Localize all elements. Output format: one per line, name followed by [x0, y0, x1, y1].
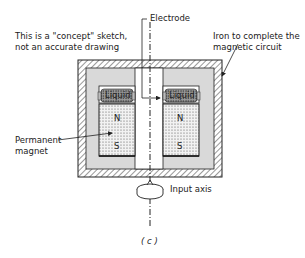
input-axis-label: Input axis [170, 184, 212, 195]
liquid-right-label: Liquid [169, 90, 195, 101]
liquid-left-label: Liquid [105, 90, 131, 101]
iron-label-line2: magnetic circuit [213, 42, 282, 53]
south-pole-left: S [114, 141, 119, 152]
magnet-label-line1: Permanent [15, 135, 61, 146]
south-pole-right: S [177, 141, 182, 152]
north-pole-left: N [114, 113, 120, 124]
central-bore [135, 68, 163, 169]
electrode-label: Electrode [150, 13, 190, 24]
magnet-label-line2: magnet [15, 146, 48, 157]
concept-note-line2: not an accurate drawing [15, 42, 119, 53]
rotation-icon [137, 180, 163, 199]
figure-caption: ( c ) [141, 236, 158, 247]
north-pole-right: N [177, 113, 183, 124]
concept-note-line1: This is a "concept" sketch, [15, 31, 127, 42]
iron-label-line1: Iron to complete the [213, 31, 300, 42]
